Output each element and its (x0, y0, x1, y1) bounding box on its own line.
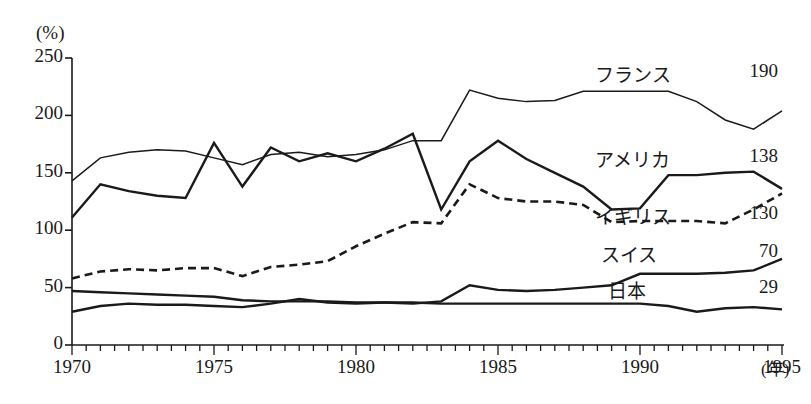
series-end-value: 190 (726, 60, 778, 82)
x-tick-label: 1975 (169, 356, 259, 378)
x-tick-label: 1970 (27, 356, 117, 378)
chart-axes (65, 58, 784, 355)
series-line-4 (72, 299, 782, 312)
chart-series-lines (72, 90, 782, 312)
series-end-value: 70 (726, 240, 778, 262)
chart-plot-area (0, 0, 811, 404)
x-tick-label: 1980 (311, 356, 401, 378)
x-tick-label: 1990 (595, 356, 685, 378)
x-tick-label: 1985 (453, 356, 543, 378)
line-chart: (%) 250200150100500 19701975198019851990… (0, 0, 811, 404)
y-tick-label: 100 (9, 217, 63, 239)
series-name-label: イギリス (595, 202, 671, 229)
series-line-3 (72, 259, 782, 304)
series-end-value: 130 (726, 202, 778, 224)
series-name-label: アメリカ (595, 145, 670, 172)
series-end-value: 138 (726, 145, 778, 167)
series-line-0 (72, 90, 782, 181)
x-axis-unit-label: (年) (761, 355, 789, 380)
y-tick-label: 250 (9, 45, 63, 67)
y-tick-label: 150 (9, 160, 63, 182)
series-line-1 (72, 134, 782, 218)
y-tick-label: 0 (9, 332, 63, 354)
series-name-label: スイス (601, 240, 657, 267)
y-tick-label: 50 (9, 275, 63, 297)
series-end-value: 29 (726, 276, 778, 298)
series-name-label: フランス (595, 60, 671, 87)
series-name-label: 日本 (608, 276, 646, 303)
y-tick-label: 200 (9, 102, 63, 124)
